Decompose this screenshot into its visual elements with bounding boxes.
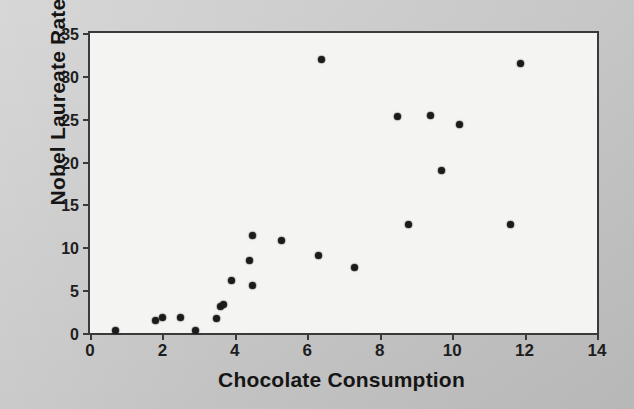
x-axis-tick <box>380 333 382 340</box>
data-point <box>318 56 325 63</box>
data-point <box>249 282 256 289</box>
plot-inner <box>90 33 597 333</box>
x-axis-tick <box>452 333 454 340</box>
y-axis-tick-label: 5 <box>70 282 79 302</box>
y-axis-tick: 35 <box>83 33 90 35</box>
y-axis-tick: 25 <box>83 119 90 121</box>
data-point <box>517 60 524 67</box>
x-axis-tick-label: 10 <box>443 341 462 361</box>
data-point <box>438 167 445 174</box>
data-point <box>507 221 514 228</box>
x-axis-tick <box>307 333 309 340</box>
y-axis-tick-label: 0 <box>70 325 79 345</box>
x-axis-tick <box>90 333 92 340</box>
x-axis-tick <box>525 333 527 340</box>
x-axis-tick-label: 8 <box>375 341 384 361</box>
data-point <box>192 327 199 334</box>
y-axis-tick: 20 <box>83 162 90 164</box>
x-axis-tick <box>597 333 599 340</box>
data-point <box>112 327 119 334</box>
x-axis-tick <box>162 333 164 340</box>
data-point <box>220 301 227 308</box>
y-axis-tick: 30 <box>83 76 90 78</box>
data-point <box>351 264 358 271</box>
data-point <box>246 257 253 264</box>
x-axis-title: Chocolate Consumption <box>88 368 595 392</box>
data-point <box>315 252 322 259</box>
x-axis-tick <box>235 333 237 340</box>
y-axis-tick: 10 <box>83 247 90 249</box>
data-point <box>177 314 184 321</box>
data-point <box>152 317 159 324</box>
data-point <box>456 121 463 128</box>
x-axis-tick-label: 2 <box>158 341 167 361</box>
y-axis-title: Nobel Laureate Rate <box>46 0 70 252</box>
data-point <box>394 113 401 120</box>
data-point <box>159 314 166 321</box>
y-axis-tick: 5 <box>83 290 90 292</box>
y-axis-tick: 15 <box>83 204 90 206</box>
data-point <box>278 237 285 244</box>
data-point <box>249 232 256 239</box>
data-point <box>405 221 412 228</box>
data-point <box>213 315 220 322</box>
x-axis-tick-label: 12 <box>515 341 534 361</box>
x-axis-tick-label: 4 <box>230 341 239 361</box>
scatter-plot-figure: 0510152025303502468101214 Chocolate Cons… <box>0 0 634 409</box>
x-axis-tick-label: 6 <box>303 341 312 361</box>
x-axis-tick-label: 0 <box>85 341 94 361</box>
data-point <box>427 112 434 119</box>
y-axis-tick: 0 <box>83 333 90 335</box>
data-point <box>228 277 235 284</box>
plot-area: 0510152025303502468101214 <box>88 31 599 335</box>
x-axis-tick-label: 14 <box>588 341 607 361</box>
